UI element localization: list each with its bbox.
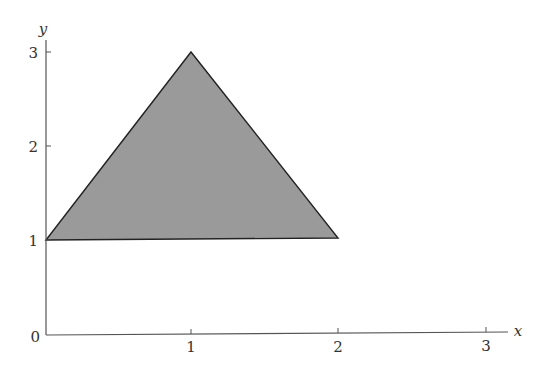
x-tick-label-3: 3 <box>481 337 491 355</box>
y-axis-label: y <box>38 20 48 38</box>
x-axis <box>46 332 508 335</box>
origin-label: 0 <box>30 328 40 346</box>
x-tick-label-2: 2 <box>333 338 343 356</box>
y-tick-label-1: 1 <box>28 232 38 250</box>
y-tick-label-2: 2 <box>28 138 38 156</box>
coordinate-plane: 1 2 3 0 1 2 3 y x <box>0 0 550 366</box>
x-axis-label: x <box>514 322 523 340</box>
x-tick-label-1: 1 <box>186 338 196 356</box>
triangle-region <box>46 52 338 240</box>
y-tick-label-3: 3 <box>28 44 38 62</box>
